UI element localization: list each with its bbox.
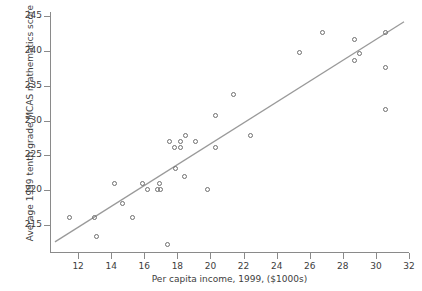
data-point (383, 65, 388, 70)
data-point (140, 181, 145, 186)
x-tick-label: 32 (397, 262, 421, 271)
x-axis-line (50, 252, 409, 253)
data-point (167, 139, 172, 144)
x-tick-label: 20 (198, 262, 222, 271)
data-point (112, 181, 117, 186)
data-point (357, 51, 362, 56)
y-tick (44, 16, 50, 17)
x-tick (376, 253, 377, 259)
data-point (213, 113, 218, 118)
x-tick (343, 253, 344, 259)
x-tick-label: 24 (265, 262, 289, 271)
x-tick-label: 16 (132, 262, 156, 271)
x-tick-label: 12 (66, 262, 90, 271)
x-tick-label: 14 (99, 262, 123, 271)
data-point (183, 133, 188, 138)
y-axis-title: Average 1999 tenth grade MCAS mathematic… (25, 3, 35, 243)
x-tick-label: 30 (364, 262, 388, 271)
x-tick (277, 253, 278, 259)
x-tick-label: 18 (165, 262, 189, 271)
x-tick-label: 28 (331, 262, 355, 271)
x-tick (177, 253, 178, 259)
plot-area (50, 12, 409, 253)
x-tick-label: 22 (232, 262, 256, 271)
x-tick (244, 253, 245, 259)
x-tick (409, 253, 410, 259)
trend-line (50, 12, 409, 253)
data-point (172, 145, 177, 150)
y-tick (44, 86, 50, 87)
y-tick (44, 155, 50, 156)
data-point (157, 181, 162, 186)
y-axis-line (50, 12, 51, 253)
data-point (182, 174, 187, 179)
x-axis-title: Per capita income, 1999, ($1000s) (50, 274, 409, 284)
scatter-chart: 215220225230235240245 121416182022242628… (0, 0, 422, 291)
data-point (248, 133, 253, 138)
x-tick-label: 26 (298, 262, 322, 271)
x-tick (144, 253, 145, 259)
y-tick (44, 51, 50, 52)
x-tick (210, 253, 211, 259)
y-tick (44, 225, 50, 226)
x-tick (78, 253, 79, 259)
y-tick (44, 190, 50, 191)
y-tick (44, 121, 50, 122)
data-point (205, 187, 210, 192)
x-tick (310, 253, 311, 259)
x-tick (111, 253, 112, 259)
